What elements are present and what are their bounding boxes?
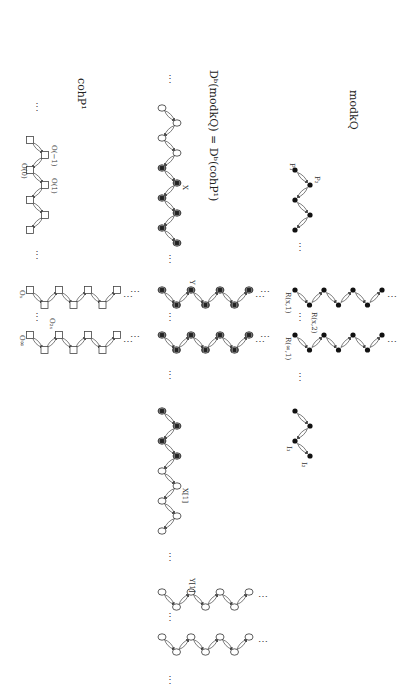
vertical-ellipsis: ⋮ [295,371,305,382]
irreducible-map-arrow [61,293,71,303]
irreducible-map-arrow [297,202,307,212]
irreducible-map-arrow [32,338,42,348]
object-label: Y[1] [188,577,196,593]
irreducible-map-arrow [32,172,42,182]
irreducible-map-arrow [179,595,189,605]
horizontal-ellipsis: ⋯ [255,291,265,302]
irreducible-map-arrow [355,338,365,348]
irreducible-map-arrow [105,293,115,303]
quiver-vertex [27,137,34,144]
quiver-vertex [158,408,166,414]
irreducible-map-arrow [312,338,322,348]
component-zigzag-lower: X[1] [158,408,189,534]
irreducible-map-arrow [164,293,174,303]
irreducible-map-arrow [164,518,174,528]
irreducible-map-arrow [222,595,232,605]
irreducible-map-arrow [179,640,189,650]
irreducible-map-arrow [61,293,71,303]
irreducible-map-arrow [164,200,174,210]
irreducible-map-arrow [61,338,71,348]
horizontal-ellipsis: ⋯ [387,291,397,302]
quiver-vertex [158,468,166,474]
quiver-vertex [173,649,181,655]
irreducible-map-arrow [32,187,42,197]
quiver-vertex [245,589,253,595]
object-label: Y [188,279,196,285]
quiver-vertex [350,287,355,292]
irreducible-map-arrow [164,488,174,498]
quiver-vertex [173,347,181,353]
irreducible-map-arrow [164,640,174,650]
object-label: R(x,2) [310,312,318,334]
component-tube-upper-1: Y [158,279,253,308]
quiver-vertex [187,287,195,293]
irreducible-map-arrow [179,640,189,650]
irreducible-map-arrow [164,503,174,513]
horizontal-ellipsis: ⋯ [123,336,133,347]
component-torsion-tube-x: OₓO₂ₓ [18,287,121,330]
component-tube-lower-2 [158,634,253,655]
vertical-ellipsis: ⋮ [295,311,305,322]
irreducible-map-arrow [355,338,365,348]
component-preprojective: P₁P₂ [288,163,321,233]
quiver-vertex [27,227,34,234]
vertical-ellipsis: ⋮ [295,241,305,252]
quiver-vertex [41,302,48,309]
irreducible-map-arrow [222,293,232,303]
panel-coh-p1: cohP¹O(−1)O(0)O(1)OₓO₂ₓO∞⋮⋮⋮⋯⋯ [18,78,133,354]
irreducible-map-arrow [297,187,307,197]
quiver-vertex [70,302,77,309]
irreducible-map-arrow [237,338,247,348]
quiver-vertex [99,347,106,354]
irreducible-map-arrow [237,640,247,650]
irreducible-map-arrow [237,338,247,348]
irreducible-map-arrow [370,293,380,303]
quiver-vertex [202,302,210,308]
irreducible-map-arrow [208,640,218,650]
quiver-vertex [307,182,312,187]
quiver-vertex [158,165,166,171]
quiver-vertex [56,287,63,294]
object-label: O(0) [20,163,28,179]
irreducible-map-arrow [179,338,189,348]
irreducible-map-arrow [164,413,174,423]
quiver-vertex [202,649,210,655]
irreducible-map-arrow [164,230,174,240]
irreducible-map-arrow [237,293,247,303]
irreducible-map-arrow [341,293,351,303]
irreducible-map-arrow [297,413,307,423]
irreducible-map-arrow [32,293,42,303]
irreducible-map-arrow [355,293,365,303]
irreducible-map-arrow [208,338,218,348]
irreducible-map-arrow [208,595,218,605]
irreducible-map-arrow [164,338,174,348]
irreducible-map-arrow [341,293,351,303]
vertical-ellipsis: ⋮ [165,551,175,562]
quiver-vertex [292,287,297,292]
vertical-ellipsis: ⋮ [32,249,42,260]
irreducible-map-arrow [32,187,42,197]
quiver-vertex [85,332,92,339]
quiver-vertex [114,287,121,294]
irreducible-map-arrow [297,428,307,438]
irreducible-map-arrow [222,293,232,303]
irreducible-map-arrow [164,185,174,195]
horizontal-ellipsis: ⋯ [258,591,268,602]
quiver-vertex [321,332,326,337]
quiver-vertex [99,302,106,309]
quiver-vertex [307,212,312,217]
quiver-vertex [187,634,195,640]
irreducible-map-arrow [208,640,218,650]
quiver-vertex [158,498,166,504]
irreducible-map-arrow [164,458,174,468]
quiver-vertex [70,347,77,354]
irreducible-map-arrow [237,595,247,605]
object-label: P₂ [313,176,321,184]
irreducible-map-arrow [32,202,42,212]
irreducible-map-arrow [164,443,174,453]
quiver-vertex [231,347,239,353]
quiver-vertex [173,453,181,459]
object-label: O(1) [50,178,58,194]
irreducible-map-arrow [32,172,42,182]
quiver-vertex [307,423,312,428]
